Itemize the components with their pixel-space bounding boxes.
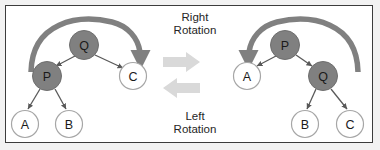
node-b-left: B <box>56 111 83 138</box>
node-c-left: C <box>120 63 147 90</box>
node-label: Q <box>79 39 89 53</box>
left-rotation-label: Left Rotation <box>155 110 235 136</box>
left-rotation-label-line2: Rotation <box>155 123 235 136</box>
edge-q-c <box>331 89 347 109</box>
edge-p-b <box>55 89 66 109</box>
node-p-left: P <box>33 62 62 91</box>
node-label: A <box>21 118 30 132</box>
edge-p-q <box>296 55 312 66</box>
node-label: P <box>281 39 289 53</box>
left-tree-nodes: Q P C A B <box>12 31 147 138</box>
node-label: C <box>128 70 137 84</box>
node-label: P <box>43 70 51 84</box>
node-label: C <box>345 118 354 132</box>
node-label: Q <box>318 70 328 84</box>
edge-q-p <box>56 56 75 66</box>
edge-p-a <box>28 89 40 109</box>
node-q-right: Q <box>309 62 338 91</box>
left-rotation-label-line1: Left <box>155 110 235 123</box>
edge-p-a <box>257 56 276 66</box>
left-arrow-block <box>163 78 200 98</box>
right-rotation-label-line2: Rotation <box>155 24 235 37</box>
node-a-right: A <box>234 63 261 90</box>
edge-q-c <box>95 55 123 68</box>
node-q-left: Q <box>70 31 99 60</box>
right-rotation-label: Right Rotation <box>155 11 235 37</box>
node-b-right: B <box>292 111 319 138</box>
node-a-left: A <box>12 111 39 138</box>
node-label: B <box>301 118 309 132</box>
node-label: B <box>65 118 73 132</box>
right-arrow-block <box>163 52 200 72</box>
edge-q-b <box>307 89 316 109</box>
node-label: A <box>243 70 252 84</box>
right-rotation-label-line1: Right <box>155 11 235 24</box>
figure-root: Q P C A B <box>0 0 380 150</box>
node-c-right: C <box>337 111 364 138</box>
node-p-right: P <box>271 31 300 60</box>
